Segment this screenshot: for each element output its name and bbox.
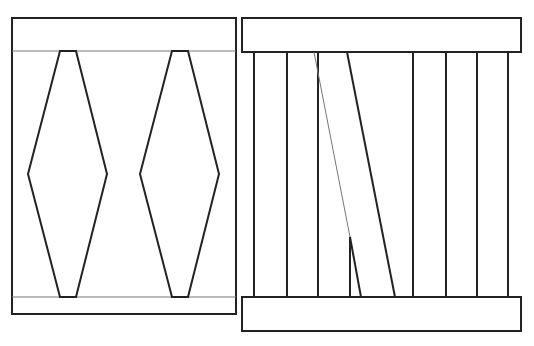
right-panel (242, 18, 521, 331)
post-block-2 (287, 52, 318, 297)
diagram-canvas (0, 0, 534, 346)
right-top-bar (242, 18, 521, 52)
left-frame (12, 18, 236, 314)
thin-diagonal-upper (314, 52, 350, 237)
thin-diagonal-lower (350, 237, 361, 297)
left-diamond-1 (28, 51, 107, 297)
right-bottom-bar (242, 297, 521, 331)
left-diamond-2 (140, 51, 219, 297)
left-panel (12, 18, 236, 314)
post-block-5 (446, 52, 477, 297)
